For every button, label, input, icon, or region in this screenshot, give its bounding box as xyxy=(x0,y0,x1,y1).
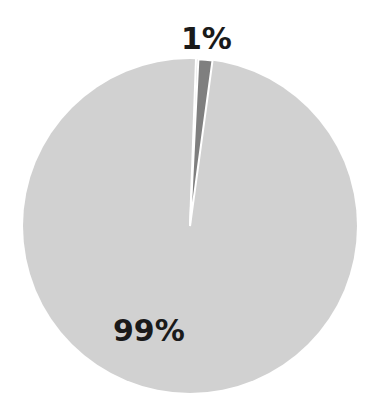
label-99-percent: 99% xyxy=(113,316,185,346)
label-1-percent: 1% xyxy=(181,24,232,54)
pie-chart xyxy=(0,0,377,409)
